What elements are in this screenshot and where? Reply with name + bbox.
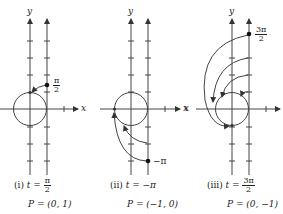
marker-point: [45, 83, 50, 88]
panel-ii: [100, 19, 180, 175]
y-axis-label-ii: y: [128, 7, 133, 16]
point-label-i: P = (0, 1): [28, 200, 72, 209]
point-label-ii: P = (−1, 0): [127, 200, 178, 209]
y-axis-label-iii: y: [229, 7, 234, 16]
point-label-iii: P = (0, −1): [227, 200, 278, 209]
x-axis-label-i: x: [81, 104, 86, 113]
caption-ii: (ii) t = −π: [110, 181, 156, 190]
panel-i: [0, 19, 78, 175]
marker-label-ii: −π: [153, 157, 166, 166]
caption-i: (i) t = π2: [14, 177, 51, 194]
marker-label-i: π2: [53, 77, 60, 94]
panel-iii: [196, 19, 280, 175]
wrap-arc: [32, 85, 46, 92]
y-axis-label-i: y: [27, 7, 32, 16]
x-axis-label-iii: x: [184, 104, 189, 113]
marker-label-iii: 3π2: [255, 26, 267, 43]
caption-iii: (iii) t = 3π2: [207, 177, 255, 194]
ticks: [27, 41, 64, 161]
